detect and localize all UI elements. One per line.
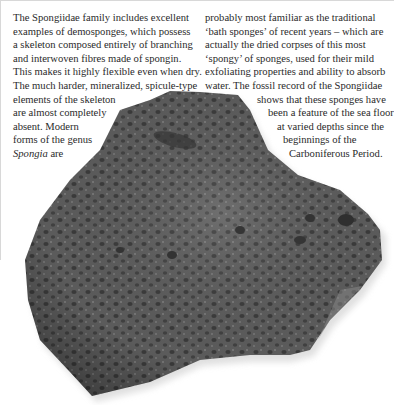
text-line: shows that these sponges have xyxy=(205,93,394,107)
text-line: and interwoven fibres made of spongin. xyxy=(13,52,202,66)
text-line: been a feature of the sea floor xyxy=(205,106,394,120)
text-line: exfoliating properties and ability to ab… xyxy=(205,65,394,79)
text-line: forms of the genus xyxy=(13,133,202,147)
article-text-right-column: probably most familiar as the traditiona… xyxy=(205,11,394,161)
text-line: water. The fossil record of the Spongiid… xyxy=(205,79,394,93)
text-line-last: Spongia are xyxy=(13,147,202,161)
text-line: The much harder, mineralized, spicule-ty… xyxy=(13,79,202,93)
text-line: actually the dried corpses of this most xyxy=(205,38,394,52)
text-line: probably most familiar as the traditiona… xyxy=(205,11,394,25)
text-line: a skeleton composed entirely of branchin… xyxy=(13,38,202,52)
text-line: examples of demosponges, which possess xyxy=(13,25,202,39)
text-line: ‘bath sponges’ of recent years – which a… xyxy=(205,25,394,39)
text-line: at varied depths since the xyxy=(205,120,394,134)
text-line: The Spongiidae family includes excellent xyxy=(13,11,202,25)
text-line: ‘spongy’ of sponges, used for their mild xyxy=(205,52,394,66)
text-line: This makes it highly flexible even when … xyxy=(13,65,202,79)
text-line: are almost completely xyxy=(13,106,202,120)
genus-name: Spongia xyxy=(13,148,48,159)
text-line: elements of the skeleton xyxy=(13,93,202,107)
text-line: absent. Modern xyxy=(13,120,202,134)
text-fragment: are xyxy=(48,148,64,159)
text-line: Carboniferous Period. xyxy=(205,147,394,161)
article-text-left-column: The Spongiidae family includes excellent… xyxy=(13,11,202,161)
text-line: beginnings of the xyxy=(205,133,394,147)
